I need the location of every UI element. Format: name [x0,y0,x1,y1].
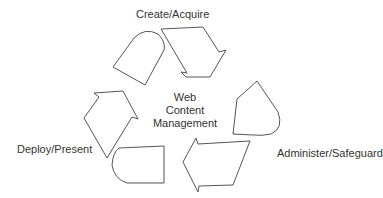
center-title-line-3: Management [140,117,230,130]
center-title-line-2: Content [140,104,230,117]
cycle-tab-top-left [113,31,164,85]
cycle-arrow-bottom [183,138,250,192]
center-title-line-1: Web [140,91,230,104]
cycle-arrow-top [161,27,226,77]
center-title: Web Content Management [140,91,230,130]
stage-label-create-acquire: Create/Acquire [136,8,209,21]
cycle-tab-right [233,81,280,135]
stage-label-administer-safeguard: Administer/Safeguard [277,147,383,160]
stage-label-deploy-present: Deploy/Present [17,143,92,156]
cycle-tab-bottom-left [112,146,164,183]
